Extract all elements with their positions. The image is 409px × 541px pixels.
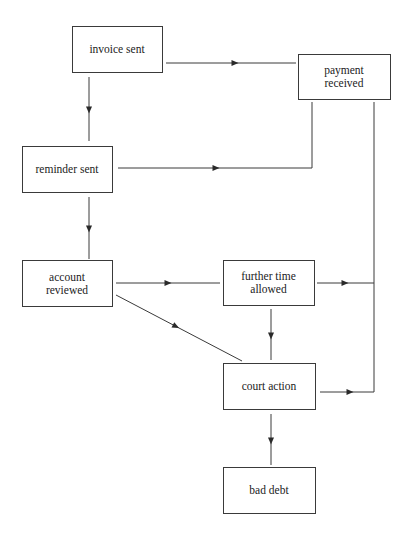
edge-reminder-account	[86, 197, 92, 259]
node-account: accountreviewed	[23, 261, 113, 307]
node-further: further timeallowed	[224, 261, 315, 306]
node-label: payment	[324, 64, 364, 77]
edge-court-payment	[320, 102, 374, 395]
node-label: bad debt	[249, 484, 289, 496]
node-label: reviewed	[46, 284, 88, 296]
node-reminder: reminder sent	[23, 147, 113, 193]
edge-line	[320, 102, 374, 392]
node-label: reminder sent	[36, 163, 100, 175]
edge-court-baddebt	[268, 414, 274, 465]
node-label: further time	[241, 270, 296, 282]
node-label: account	[49, 271, 86, 283]
node-label: allowed	[250, 283, 287, 295]
arrowhead-icon	[232, 60, 239, 66]
arrowhead-icon	[86, 107, 92, 114]
edge-further-payment	[317, 280, 374, 286]
arrowhead-icon	[342, 280, 349, 286]
node-invoice: invoice sent	[73, 27, 163, 73]
edge-invoice-reminder	[86, 77, 92, 141]
flowchart-diagram: invoice sentpaymentreceivedreminder sent…	[0, 0, 409, 541]
arrowhead-icon	[347, 389, 354, 395]
edge-invoice-payment	[166, 60, 296, 66]
node-court: court action	[224, 364, 316, 410]
arrowhead-icon	[165, 280, 172, 286]
node-baddebt: bad debt	[224, 468, 316, 514]
edge-further-court	[268, 309, 274, 360]
edge-line	[118, 102, 312, 168]
node-label: invoice sent	[89, 43, 145, 55]
node-payment: paymentreceived	[299, 55, 391, 100]
edge-reminder-payment	[118, 102, 312, 171]
arrowhead-icon	[86, 226, 92, 233]
nodes-layer: invoice sentpaymentreceivedreminder sent…	[23, 27, 391, 514]
node-label: court action	[242, 380, 297, 392]
arrowhead-icon	[268, 438, 274, 445]
node-label: received	[325, 77, 364, 89]
edge-account-further	[116, 280, 220, 286]
arrowhead-icon	[213, 165, 220, 171]
arrowhead-icon	[268, 333, 274, 340]
